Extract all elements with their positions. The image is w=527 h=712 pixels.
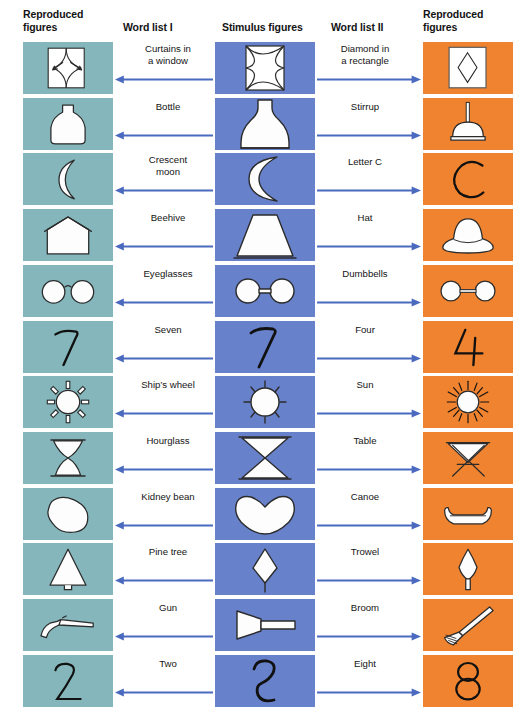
arrow-left-icon <box>115 130 213 141</box>
word-list-2-arrow-group: Hat <box>315 209 423 261</box>
word-list-1-label: Beehive <box>113 212 215 224</box>
header-word-list-1: Word list I <box>123 21 215 34</box>
figure-row: CrescentmoonLetter C <box>0 153 527 205</box>
carmichael-figure-diagram: Reproduced figures Word list I Stimulus … <box>0 0 527 712</box>
broom-drawing <box>423 599 513 651</box>
word-list-2-arrow-group: Eight <box>315 655 423 707</box>
word-list-1-arrow-group: Kidney bean <box>113 488 215 540</box>
dumbbells-drawing <box>423 265 513 317</box>
circle-with-rays <box>215 376 315 428</box>
word-list-2-label: Stirrup <box>315 101 423 113</box>
word-list-2-arrow-group: Diamond ina rectangle <box>315 42 423 94</box>
word-list-1-arrow-group: Two <box>113 655 215 707</box>
curved-bean-shape <box>215 488 315 540</box>
arrow-right-icon <box>317 130 421 141</box>
word-list-2-label: Broom <box>315 602 423 614</box>
word-list-1-arrow-group: Pine tree <box>113 543 215 595</box>
figure-row: Ship’s wheelSun <box>0 376 527 428</box>
figure-row: BottleStirrup <box>0 98 527 150</box>
word-list-1-arrow-group: Hourglass <box>113 432 215 484</box>
word-list-1-arrow-group: Curtains ina window <box>113 42 215 94</box>
word-list-2-arrow-group: Four <box>315 321 423 373</box>
stirrup-drawing <box>423 98 513 150</box>
figure-row: TwoEight <box>0 655 527 707</box>
figure-row: SevenFour <box>0 321 527 373</box>
arrow-right-icon <box>317 297 421 308</box>
header-reproduced-right-line2: figures <box>423 21 457 33</box>
word-list-2-arrow-group: Broom <box>315 599 423 651</box>
arrow-right-icon <box>317 520 421 531</box>
arrow-right-icon <box>317 241 421 252</box>
seven-like-figure <box>215 321 315 373</box>
beehive-drawing <box>23 209 113 261</box>
cone-with-handle <box>215 599 315 651</box>
word-list-1-label: Bottle <box>113 101 215 113</box>
arrow-right-icon <box>317 575 421 586</box>
word-list-2-arrow-group: Dumbbells <box>315 265 423 317</box>
word-list-2-label: Four <box>315 324 423 336</box>
arrow-left-icon <box>115 520 213 531</box>
hourglass-drawing <box>23 432 113 484</box>
word-list-2-label: Hat <box>315 212 423 224</box>
figure-row: HourglassTable <box>0 432 527 484</box>
header-reproduced-left: Reproduced figures <box>23 8 115 33</box>
word-list-1-arrow-group: Seven <box>113 321 215 373</box>
word-list-1-arrow-group: Beehive <box>113 209 215 261</box>
digit-seven-drawing <box>23 321 113 373</box>
diamond-with-stem <box>215 543 315 595</box>
word-list-1-arrow-group: Bottle <box>113 98 215 150</box>
figure-row: GunBroom <box>0 599 527 651</box>
word-list-2-arrow-group: Table <box>315 432 423 484</box>
word-list-1-label: Eyeglasses <box>113 268 215 280</box>
canoe-drawing <box>423 488 513 540</box>
word-list-1-label: Seven <box>113 324 215 336</box>
word-list-2-arrow-group: Trowel <box>315 543 423 595</box>
letter-c-drawing <box>423 153 513 205</box>
two-like-figure <box>215 655 315 707</box>
pine-tree-drawing <box>23 543 113 595</box>
figure-row: BeehiveHat <box>0 209 527 261</box>
crescent-shape <box>215 153 315 205</box>
arrow-left-icon <box>115 575 213 586</box>
word-list-1-label: Hourglass <box>113 435 215 447</box>
word-list-1-label: Gun <box>113 602 215 614</box>
trapezoid-shape <box>215 209 315 261</box>
two-circles-joined-by-bar <box>215 265 315 317</box>
arrow-right-icon <box>317 353 421 364</box>
arrow-left-icon <box>115 408 213 419</box>
word-list-2-label: Table <box>315 435 423 447</box>
word-list-2-label: Sun <box>315 379 423 391</box>
crescent-moon-drawing <box>23 153 113 205</box>
figure-row: Kidney beanCanoe <box>0 488 527 540</box>
digit-eight-drawing <box>423 655 513 707</box>
word-list-2-label: Canoe <box>315 491 423 503</box>
header-reproduced-left-line2: figures <box>23 21 57 33</box>
bottle-drawing <box>23 98 113 150</box>
word-list-2-arrow-group: Letter C <box>315 153 423 205</box>
arrow-right-icon <box>317 464 421 475</box>
two-triangles-bowtie <box>215 432 315 484</box>
curtains-in-window-drawing <box>23 42 113 94</box>
digit-four-drawing <box>423 321 513 373</box>
arrow-right-icon <box>317 74 421 85</box>
arrow-left-icon <box>115 297 213 308</box>
arrow-left-icon <box>115 74 213 85</box>
word-list-2-label: Trowel <box>315 546 423 558</box>
word-list-2-arrow-group: Canoe <box>315 488 423 540</box>
word-list-1-label: Two <box>113 658 215 670</box>
word-list-1-label: Kidney bean <box>113 491 215 503</box>
word-list-1-arrow-group: Crescentmoon <box>113 153 215 205</box>
arrow-right-icon <box>317 185 421 196</box>
arrow-left-icon <box>115 464 213 475</box>
word-list-2-label: Letter C <box>315 156 423 168</box>
word-list-1-arrow-group: Ship’s wheel <box>113 376 215 428</box>
word-list-1-label: Ship’s wheel <box>113 379 215 391</box>
word-list-2-label: Eight <box>315 658 423 670</box>
sun-drawing <box>423 376 513 428</box>
header-reproduced-right: Reproduced figures <box>423 8 515 33</box>
hat-drawing <box>423 209 513 261</box>
header-reproduced-right-line1: Reproduced <box>423 8 483 20</box>
word-list-2-arrow-group: Sun <box>315 376 423 428</box>
eyeglasses-drawing <box>23 265 113 317</box>
arrow-right-icon <box>317 408 421 419</box>
